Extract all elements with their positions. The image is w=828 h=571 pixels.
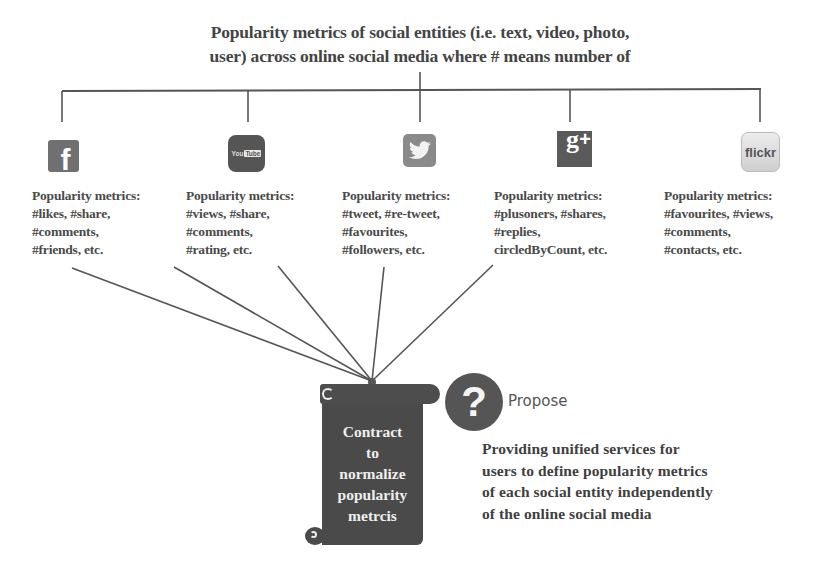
metrics-line: #replies, (494, 223, 607, 241)
metrics-line: #comments, (186, 223, 294, 241)
metrics-line: #plusoners, #shares, (494, 205, 607, 223)
facebook-glyph: f (61, 143, 71, 172)
contract-scroll: Contract to normalize popularity metrcis (322, 395, 423, 545)
contract-line: metrcis (348, 505, 397, 526)
description-line: Providing unified services for (482, 438, 713, 460)
flickr-icon: flickr (741, 132, 780, 172)
metrics-label: Popularity metrics: (186, 187, 294, 205)
converge-line-facebook (72, 268, 372, 381)
question-glyph: ? (461, 378, 487, 426)
google-plus-icon: g + (557, 131, 592, 167)
metrics-youtube: Popularity metrics: #views, #share, #com… (186, 187, 294, 259)
metrics-line: #favourites, #views, (664, 205, 773, 223)
metrics-line: #comments, (32, 223, 140, 241)
metrics-flickr: Popularity metrics: #favourites, #views,… (664, 187, 773, 259)
youtube-glyph-tube: Tube (244, 150, 261, 157)
metrics-line: #friends, etc. (32, 241, 140, 259)
twitter-bird-icon (408, 141, 432, 161)
metrics-line: #followers, etc. (342, 241, 450, 259)
converge-line-flickr (372, 265, 493, 381)
metrics-line: #comments, (664, 223, 773, 241)
metrics-line: circledByCount, etc. (494, 241, 607, 259)
converge-line-googleplus (372, 267, 384, 381)
description-line: users to define popularity metrics (482, 460, 713, 482)
scroll-curl-icon (322, 388, 334, 400)
metrics-label: Popularity metrics: (32, 187, 140, 205)
metrics-label: Popularity metrics: (664, 187, 773, 205)
google-plus-glyph-plus: + (579, 131, 591, 151)
proposal-description: Providing unified services for users to … (482, 438, 713, 524)
converge-line-youtube (174, 267, 372, 381)
metrics-label: Popularity metrics: (342, 187, 450, 205)
metrics-line: #tweet, #re-tweet, (342, 205, 450, 223)
metrics-line: #contacts, etc. (664, 241, 773, 259)
contract-line: to (366, 442, 379, 463)
contract-line: Contract (343, 421, 402, 442)
question-mark-icon: ? (445, 373, 503, 431)
metrics-line: #views, #share, (186, 205, 294, 223)
contract-line: popularity (338, 484, 408, 505)
facebook-icon: f (48, 140, 79, 172)
scroll-top-roll (320, 384, 440, 404)
metrics-twitter: Popularity metrics: #tweet, #re-tweet, #… (342, 187, 450, 259)
youtube-icon: YouTube (228, 135, 265, 172)
metrics-label: Popularity metrics: (494, 187, 607, 205)
metrics-googleplus: Popularity metrics: #plusoners, #shares,… (494, 187, 607, 259)
description-line: of each social entity independently (482, 481, 713, 503)
flickr-glyph: flickr (745, 145, 776, 160)
contract-line: normalize (339, 463, 405, 484)
twitter-icon (403, 134, 436, 167)
metrics-facebook: Popularity metrics: #likes, #share, #com… (32, 187, 140, 259)
metrics-line: #rating, etc. (186, 241, 294, 259)
propose-label: Propose (508, 392, 568, 410)
youtube-glyph-you: You (232, 150, 244, 157)
description-line: of the online social media (482, 503, 713, 525)
scroll-bottom-curl-icon (305, 527, 325, 545)
horizontal-bus-line (62, 89, 761, 91)
metrics-line: #likes, #share, (32, 205, 140, 223)
metrics-line: #favourites, (342, 223, 450, 241)
google-plus-glyph-g: g (566, 131, 579, 155)
